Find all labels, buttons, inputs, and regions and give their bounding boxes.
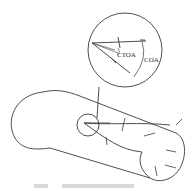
figure-caption	[34, 184, 134, 188]
crack-opening-diagram: CTOA COA	[0, 0, 193, 191]
magnified-view-circle	[88, 13, 162, 87]
load-arrows	[106, 118, 182, 176]
ctoa-label: CTOA	[117, 51, 136, 59]
crack-lines	[84, 123, 170, 152]
coa-label: COA	[144, 56, 159, 64]
crack-tip-circle	[77, 114, 99, 136]
